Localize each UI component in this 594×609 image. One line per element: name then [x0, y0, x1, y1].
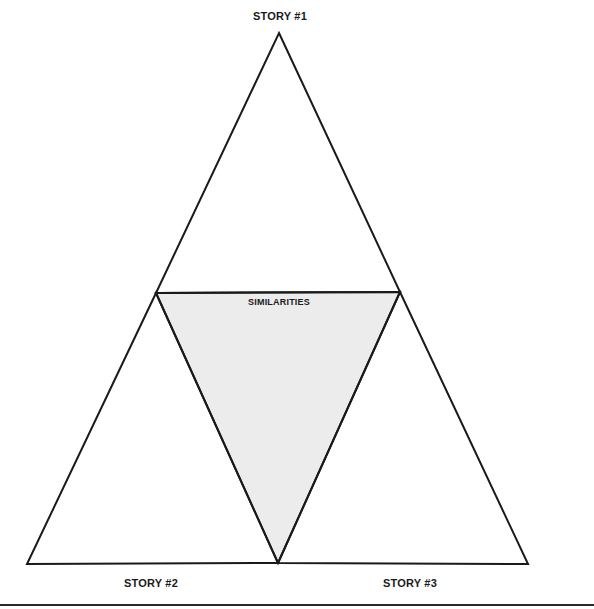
- similarities-region[interactable]: [156, 292, 400, 563]
- bottom-divider: [0, 604, 594, 606]
- story-1-region[interactable]: [156, 33, 400, 293]
- story-comparison-diagram: STORY #1 SIMILARITIES STORY #2 STORY #3: [0, 0, 594, 609]
- story-3-label: STORY #3: [383, 577, 437, 589]
- similarities-label: SIMILARITIES: [248, 297, 310, 307]
- story-2-label: STORY #2: [124, 577, 178, 589]
- story-1-label: STORY #1: [253, 10, 307, 22]
